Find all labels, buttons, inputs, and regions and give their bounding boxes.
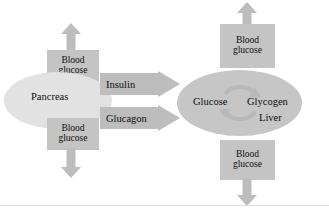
box-liver-blood-glucose-down: Blood glucose — [220, 140, 275, 180]
down-arrow-icon — [60, 148, 82, 178]
liver-label: Liver — [259, 112, 282, 123]
box-pancreas-blood-glucose-down: Blood glucose — [47, 118, 99, 150]
box-line2: glucose — [233, 45, 262, 55]
box-liver-blood-glucose-up: Blood glucose — [220, 24, 275, 68]
glucagon-label: Glucagon — [100, 105, 147, 131]
liver-glycogen-label: Glycogen — [247, 96, 288, 107]
box-line2: glucose — [58, 133, 87, 143]
up-arrow-icon — [60, 23, 82, 53]
box-line1: Blood — [236, 35, 259, 45]
box-line1: Blood — [61, 123, 84, 133]
down-arrow-icon — [236, 178, 258, 206]
insulin-arrow: Insulin — [100, 71, 180, 97]
box-line2: glucose — [233, 159, 262, 169]
liver-glucose-label: Glucose — [193, 96, 227, 107]
diagram-canvas: Blood glucose Pancreas Blood glucose Ins… — [0, 0, 329, 219]
insulin-label: Insulin — [100, 71, 135, 97]
box-line1: Blood — [61, 55, 84, 65]
pancreas-label: Pancreas — [31, 91, 68, 102]
glucagon-arrow: Glucagon — [100, 105, 180, 131]
figure-baseline-rule — [0, 205, 329, 206]
box-line1: Blood — [236, 149, 259, 159]
